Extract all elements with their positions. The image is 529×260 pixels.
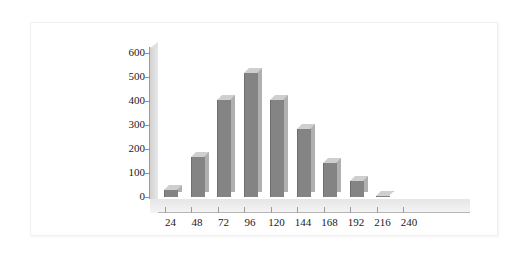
bar — [297, 124, 310, 197]
y-axis-tick-mark — [145, 173, 150, 174]
bar — [350, 176, 363, 197]
bar-front-face — [244, 73, 258, 197]
bar-front-face — [376, 196, 390, 197]
x-axis-tick-label: 24 — [156, 217, 186, 228]
y-axis-tick-mark — [145, 101, 150, 102]
y-axis-tick-label: 400 — [103, 95, 145, 106]
bar-front-face — [323, 163, 337, 197]
x-axis-tick-mark — [324, 207, 325, 213]
x-axis-tick-label: 48 — [182, 217, 212, 228]
bar-chart: 0100200300400500600 24487296120144168192… — [31, 23, 497, 235]
x-axis-tick-mark — [271, 207, 272, 213]
x-axis-tick-label: 120 — [262, 217, 292, 228]
x-axis-tick-label: 96 — [235, 217, 265, 228]
y-axis-tick-label: 600 — [103, 47, 145, 58]
y-axis-tick-mark — [145, 53, 150, 54]
bar — [217, 95, 230, 197]
bar-front-face — [350, 181, 364, 197]
y-axis-wall-top — [150, 42, 158, 48]
bar — [270, 95, 283, 197]
y-axis-tick-label: 500 — [103, 71, 145, 82]
y-axis-tick-label: 100 — [103, 167, 145, 178]
bar — [323, 158, 336, 197]
x-axis-tick-mark — [377, 207, 378, 213]
x-axis-tick-mark — [297, 207, 298, 213]
x-axis-tick-mark — [165, 207, 166, 213]
bar — [244, 68, 257, 197]
y-axis-tick-label: 200 — [103, 143, 145, 154]
y-axis-labels: 0100200300400500600 — [97, 23, 145, 235]
bar-front-face — [270, 100, 284, 197]
bar-front-face — [297, 129, 311, 197]
x-axis-tick-mark — [244, 207, 245, 213]
x-axis-tick-label: 144 — [288, 217, 318, 228]
x-axis-tick-label: 192 — [341, 217, 371, 228]
screenshot-canvas: 0100200300400500600 24487296120144168192… — [0, 0, 529, 260]
y-axis-tick-mark — [145, 77, 150, 78]
plot-floor-front-edge — [158, 212, 470, 213]
bar-front-face — [217, 100, 231, 197]
y-axis-line — [149, 47, 150, 199]
y-axis-tick-mark — [145, 125, 150, 126]
bar-front-face — [191, 157, 205, 197]
x-axis-tick-mark — [218, 207, 219, 213]
bar — [403, 192, 416, 197]
x-axis-tick-label: 72 — [209, 217, 239, 228]
bar — [191, 152, 204, 197]
x-axis-tick-label: 216 — [368, 217, 398, 228]
y-axis-tick-label: 300 — [103, 119, 145, 130]
figure-frame: 0100200300400500600 24487296120144168192… — [30, 22, 498, 236]
plot-floor — [150, 199, 470, 213]
x-axis-tick-mark — [403, 207, 404, 213]
y-axis-tick-mark — [145, 197, 150, 198]
x-axis-tick-label: 240 — [394, 217, 424, 228]
y-axis-tick-mark — [145, 149, 150, 150]
x-axis-tick-mark — [350, 207, 351, 213]
bar — [164, 185, 177, 197]
y-axis-wall — [150, 47, 158, 199]
bar-front-face — [164, 190, 178, 197]
y-axis-tick-label: 0 — [103, 191, 145, 202]
x-axis-tick-mark — [191, 207, 192, 213]
bar — [376, 191, 389, 197]
x-axis-tick-label: 168 — [315, 217, 345, 228]
